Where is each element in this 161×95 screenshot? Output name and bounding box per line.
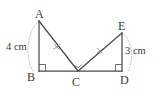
guide-arc-group <box>28 21 132 71</box>
segment-group <box>39 21 122 71</box>
vertex-label-d: D <box>120 74 129 86</box>
arc-ab-icon <box>28 21 39 71</box>
right-angle-marker-b <box>39 65 46 72</box>
geometry-figure: A B C D E 4 cm 3 cm <box>0 0 161 95</box>
right-angle-marker-d <box>116 65 123 72</box>
vertex-label-e: E <box>118 20 125 32</box>
vertex-label-b: B <box>27 71 35 83</box>
length-label-ed: 3 cm <box>125 46 146 57</box>
vertex-label-c: C <box>72 76 80 88</box>
vertex-label-a: A <box>35 8 44 20</box>
segment-ac <box>39 21 78 71</box>
length-label-ab: 4 cm <box>6 42 27 53</box>
